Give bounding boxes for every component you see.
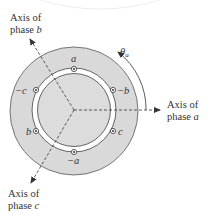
theta-label: θa	[120, 46, 129, 59]
conductor-c	[110, 128, 115, 133]
conductor-label-c: c	[118, 126, 123, 137]
conductor-label-neg-b: −b	[117, 85, 129, 96]
conductor-neg-b	[110, 87, 115, 92]
phase-b-axis-label: Axis of phase b	[10, 12, 44, 35]
conductor-b	[33, 128, 38, 133]
conductor-neg-a	[71, 149, 76, 154]
conductor-neg-c	[33, 87, 38, 92]
background-arc	[40, 0, 160, 9]
conductor-a	[71, 66, 76, 71]
phase-c-axis-label: Axis of phase c	[8, 188, 42, 211]
conductor-label-neg-a: −a	[67, 155, 79, 166]
phase-a-axis-label: Axis of phase a	[167, 99, 201, 122]
conductor-label-neg-c: −c	[15, 85, 27, 96]
conductor-label-b: b	[26, 126, 31, 137]
machine-diagram: a −b c −a b −c θa Axis of phase b Axis o…	[0, 0, 209, 222]
conductor-label-a: a	[71, 53, 76, 64]
